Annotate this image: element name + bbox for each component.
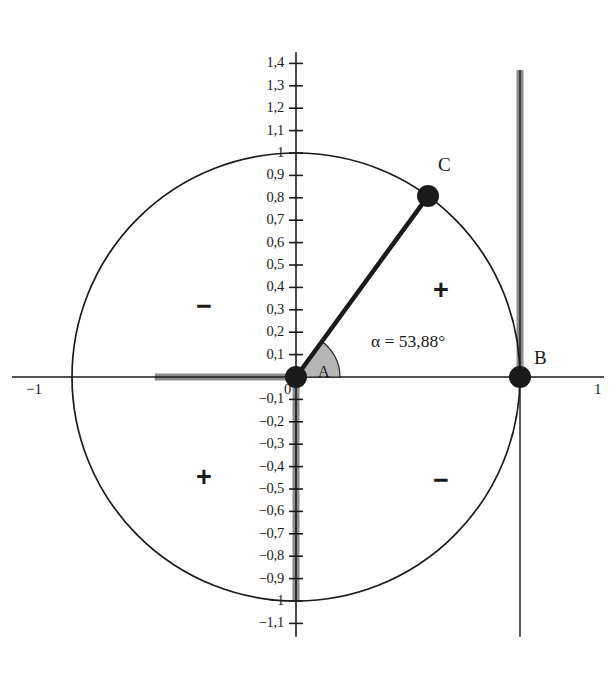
y-tick-label-8: 0,6 <box>224 234 284 251</box>
y-tick-label-20: −0,7 <box>224 525 284 542</box>
y-tick-label-12: 0,2 <box>224 323 284 340</box>
y-tick-label-18: −0,5 <box>224 480 284 497</box>
quadrant-3-sign: + <box>189 462 219 493</box>
y-tick-label-2: 1,2 <box>224 99 284 116</box>
y-axis-origin-label: 0 <box>284 381 291 398</box>
y-tick-label-21: −0,8 <box>224 547 284 564</box>
quadrant-1-sign: + <box>426 275 456 306</box>
point-c[interactable] <box>417 185 439 207</box>
y-tick-label-17: −0,4 <box>224 458 284 475</box>
y-tick-label-23: −1 <box>224 592 284 609</box>
y-tick-label-1: 1,3 <box>224 77 284 94</box>
y-tick-label-10: 0,4 <box>224 278 284 295</box>
y-tick-label-3: 1,1 <box>224 122 284 139</box>
point-b[interactable] <box>509 366 531 388</box>
y-tick-label-22: −0,9 <box>224 570 284 587</box>
quadrant-4-sign: − <box>426 465 456 496</box>
y-tick-label-0: 1,4 <box>224 54 284 71</box>
x-axis-left-label: −1 <box>26 381 42 398</box>
y-tick-label-4: 1 <box>224 144 284 161</box>
y-tick-label-9: 0,5 <box>224 256 284 273</box>
y-tick-label-19: −0,6 <box>224 502 284 519</box>
unit-circle-svg <box>0 0 616 681</box>
y-tick-label-15: −0,2 <box>224 413 284 430</box>
x-axis-right-label: 1 <box>594 381 602 398</box>
y-tick-label-24: −1,1 <box>224 614 284 631</box>
diagram-canvas: 1,41,31,21,110,90,80,70,60,50,40,30,20,1… <box>0 0 616 681</box>
y-tick-label-11: 0,3 <box>224 301 284 318</box>
y-tick-label-13: 0,1 <box>224 346 284 363</box>
y-tick-label-14: −0,1 <box>224 390 284 407</box>
point-label-c: C <box>438 154 451 176</box>
y-tick-label-5: 0,9 <box>224 166 284 183</box>
point-label-b: B <box>534 347 547 369</box>
y-tick-label-7: 0,7 <box>224 211 284 228</box>
quadrant-2-sign: − <box>189 291 219 322</box>
y-tick-label-16: −0,3 <box>224 435 284 452</box>
point-label-a: A <box>318 363 330 381</box>
y-tick-label-6: 0,8 <box>224 189 284 206</box>
angle-annotation: α = 53,88° <box>371 331 445 352</box>
